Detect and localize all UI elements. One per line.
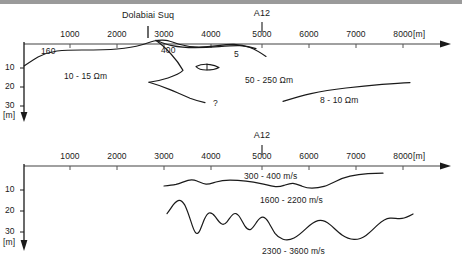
resistivity-xtick-6000: 6000	[299, 30, 318, 39]
resistivity-annotation-question: ?	[213, 99, 218, 108]
velocity-x-unit: [m]	[413, 152, 425, 161]
velocity-layer-label-300-400: 300 - 400 m/s	[244, 172, 297, 181]
velocity-y-unit: [m]	[3, 238, 15, 247]
velocity-xtick-3000: 3000	[154, 152, 173, 161]
resistivity-layer-label-50-250: 50 - 250 Ωm	[245, 76, 293, 85]
resistivity-ytick-30: 30	[5, 101, 15, 110]
resistivity-ytick-20: 20	[5, 82, 15, 91]
velocity-ytick-20: 20	[5, 206, 15, 215]
resistivity-ytick-10: 10	[5, 63, 15, 72]
velocity-ytick-30: 30	[5, 227, 15, 236]
velocity-x-axis	[24, 163, 451, 171]
velocity-y-axis	[20, 164, 27, 251]
velocity-xtick-7000: 7000	[346, 152, 365, 161]
site-label-a12-top: A12	[254, 9, 270, 18]
figure-canvas	[0, 0, 462, 268]
resistivity-y-axis	[20, 42, 27, 122]
resistivity-annotation-5: 5	[234, 50, 239, 59]
boundary-fault-lower	[149, 82, 205, 102]
resistivity-xtick-8000: 8000	[393, 30, 412, 39]
resistivity-x-unit: [m]	[413, 30, 425, 39]
resistivity-y-unit: [m]	[3, 111, 15, 120]
resistivity-xtick-7000: 7000	[346, 30, 365, 39]
resistivity-xtick-1000: 1000	[60, 30, 79, 39]
resistivity-xtick-5000: 5000	[252, 30, 271, 39]
resistivity-annotation-160: 160	[41, 47, 55, 56]
velocity-xtick-8000: 8000	[393, 152, 412, 161]
resistivity-xtick-4000: 4000	[201, 30, 220, 39]
resistivity-layer-label-10-15: 10 - 15 Ωm	[64, 72, 107, 81]
resistivity-annotation-400: 400	[161, 46, 175, 55]
velocity-layer-label-2300-3600: 2300 - 3600 m/s	[262, 247, 325, 256]
site-label-dolabiai-suq: Dolabiai Suq	[122, 11, 174, 20]
velocity-xtick-1000: 1000	[60, 152, 79, 161]
velocity-xtick-5000: 5000	[252, 152, 271, 161]
velocity-ytick-10: 10	[5, 185, 15, 194]
boundary-v2-v3	[167, 200, 413, 239]
resistivity-xtick-2000: 2000	[107, 30, 126, 39]
velocity-layer-label-1600-2200: 1600 - 2200 m/s	[260, 196, 323, 205]
velocity-xtick-6000: 6000	[299, 152, 318, 161]
velocity-boundaries	[164, 173, 413, 240]
resistivity-xtick-3000: 3000	[154, 30, 173, 39]
velocity-xtick-2000: 2000	[107, 152, 126, 161]
resistivity-layer-label-8-10: 8 - 10 Ωm	[320, 96, 358, 105]
site-label-a12-bottom: A12	[254, 131, 270, 140]
geophysical-cross-section-figure: Dolabiai Suq A12 1000 2000 3000 4000 500…	[0, 0, 462, 268]
velocity-xtick-4000: 4000	[201, 152, 220, 161]
